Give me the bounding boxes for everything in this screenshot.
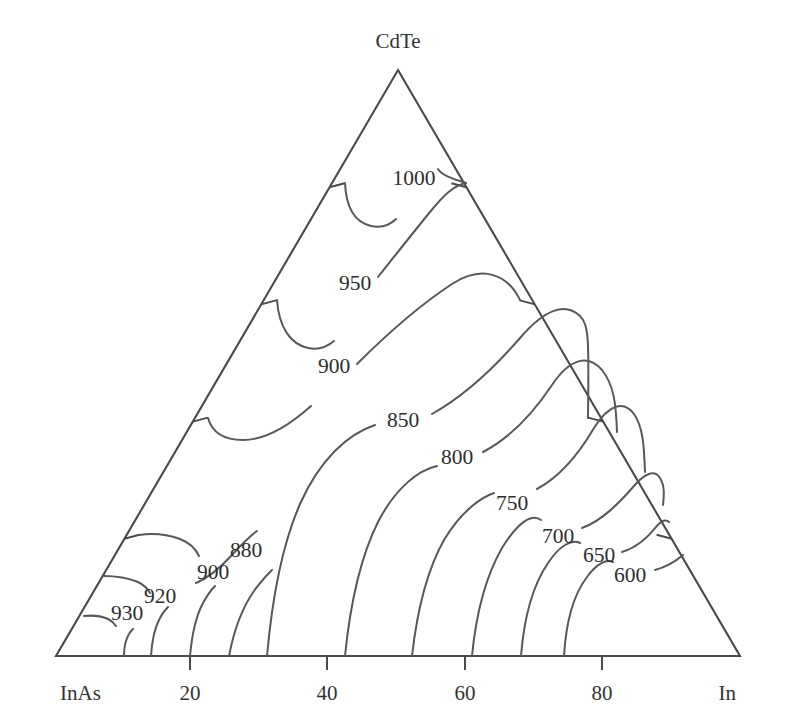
left-axis-ticks [124,183,344,539]
contour-920-segment-lower [151,607,168,656]
contour-600-segment-lower [564,561,613,656]
axis-tick-label-80: 80 [592,681,613,705]
contour-700-segment-lower [472,518,541,656]
contour-850-segment-upper [432,309,588,418]
contour-900-upper [208,274,520,440]
contour-650-segment-lower [521,542,580,656]
contour-label-650: 650 [583,543,615,567]
contour-label-900-upper: 900 [318,354,350,378]
contour-880-segment-lower [229,570,272,656]
contour-800-segment-upper [483,361,617,452]
ternary-phase-diagram-figure: CdTe InAs In 20 40 60 80 1000 950 900 85… [0,0,785,725]
contour-900-upper-segment-right [357,274,520,364]
ternary-diagram-canvas: CdTe InAs In 20 40 60 80 1000 950 900 85… [0,0,785,725]
contour-1000-segment-left [345,183,396,227]
bottom-axis-ticks [190,656,602,670]
contour-750 [412,406,645,656]
axis-tick-label-20: 20 [180,681,201,705]
contour-800-segment-lower [345,466,437,656]
contour-900-lower-segment-upper [139,534,199,556]
contour-label-950: 950 [339,271,371,295]
contour-700-segment-upper [582,473,664,528]
contour-label-900-lower: 900 [197,560,229,584]
vertex-label-cdte: CdTe [375,29,420,53]
contour-label-880: 880 [230,538,262,562]
contour-label-800: 800 [441,445,473,469]
contour-1000-segment-right [438,169,466,183]
contour-label-930: 930 [111,601,143,625]
contour-label-700: 700 [542,524,574,548]
contour-930-segment-lower [124,629,133,656]
contour-950-segment-right [378,183,466,277]
contour-label-850: 850 [387,408,419,432]
contour-900-lower-segment-lower [190,586,215,656]
contour-850-segment-lower [267,425,375,656]
contour-800 [345,361,617,656]
contour-600-segment-upper [655,555,683,570]
right-axis-ticks [451,183,671,539]
contour-label-1000: 1000 [393,166,436,190]
contour-label-600: 600 [614,563,646,587]
vertex-label-in: In [719,681,737,705]
contour-750-segment-lower [412,493,494,656]
axis-tick-label-40: 40 [317,681,338,705]
axis-tick-label-60: 60 [455,681,476,705]
contour-label-750: 750 [496,491,528,515]
contour-900-upper-segment-left [208,406,311,440]
contour-950 [277,183,466,349]
vertex-label-inas: InAs [60,681,101,705]
contour-label-920: 920 [144,584,176,608]
contour-850 [267,309,588,656]
contour-950-segment-left [277,300,334,349]
